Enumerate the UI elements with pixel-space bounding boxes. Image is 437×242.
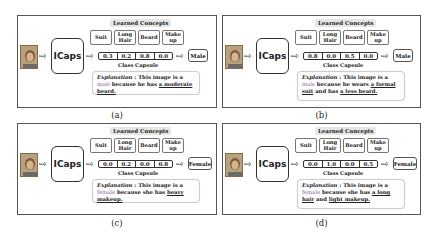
icaps-model-box: ICaps: [256, 146, 289, 182]
class-capsule-label: Class Capsule: [323, 170, 363, 176]
concept-long-hair: Long Hair: [114, 30, 136, 45]
icaps-model-box: ICaps: [51, 146, 84, 182]
class-capsule: 0.0 1.0 0.0 0.5: [303, 160, 378, 168]
arrow-right-icon: ⇨: [176, 52, 184, 61]
concept-long-hair: Long Hair: [319, 138, 341, 153]
class-word: male: [302, 81, 315, 87]
learned-concepts-title: Learned Concepts: [315, 19, 376, 27]
arrow-right-icon: ⇨: [381, 160, 389, 169]
class-word: female: [302, 189, 320, 195]
model-label: ICaps: [259, 51, 287, 61]
capsule-value: 0.2: [118, 53, 137, 59]
model-label: ICaps: [259, 159, 287, 169]
concept-beard: Beard: [138, 30, 160, 45]
explanation-box: Explanation : This image is a male becau…: [297, 71, 405, 101]
learned-concepts-title: Learned Concepts: [110, 127, 171, 135]
explanation-label: Explanation: [302, 74, 337, 80]
capsule-value: 0.5: [341, 53, 360, 59]
concept-make-up: Make up: [162, 138, 184, 153]
concept-suit: Suit: [90, 30, 112, 45]
face-photo: [20, 45, 38, 69]
capsule-value: 0.2: [118, 161, 137, 167]
explanation-label: Explanation: [97, 74, 132, 80]
figure-panel-a: ⇨ ICaps Learned Concepts Suit Long Hair …: [17, 15, 217, 108]
evidence-text: a less beard.: [340, 88, 377, 94]
capsule-value: 0.0: [136, 161, 155, 167]
capsule-value: 0.0: [155, 53, 173, 59]
explanation-label: Explanation: [302, 182, 337, 188]
concept-make-up: Make up: [367, 30, 389, 45]
class-capsule-label: Class Capsule: [118, 170, 158, 176]
concept-make-up: Make up: [162, 30, 184, 45]
arrow-right-icon: ⇨: [291, 52, 299, 61]
capsule-value: 0.0: [341, 161, 360, 167]
class-word: male: [97, 81, 110, 87]
explanation-box: Explanation : This image is a male becau…: [92, 71, 200, 95]
class-capsule-label: Class Capsule: [118, 62, 158, 68]
arrow-right-icon: ⇨: [176, 160, 184, 169]
explanation-box: Explanation : This image is a female bec…: [297, 179, 405, 209]
capsule-value: 0.3: [99, 53, 118, 59]
arrow-right-icon: ⇨: [291, 160, 299, 169]
capsule-value: 1.0: [323, 161, 342, 167]
concept-beard: Beard: [343, 30, 365, 45]
concept-suit: Suit: [295, 30, 317, 45]
capsule-value: 0.0: [99, 161, 118, 167]
class-capsule-label: Class Capsule: [323, 62, 363, 68]
concept-suit: Suit: [90, 138, 112, 153]
evidence-text: light makeup.: [329, 196, 370, 202]
panel-caption: (b): [307, 110, 337, 120]
capsule-value: 0.5: [360, 161, 378, 167]
capsule-value: 0.8: [155, 161, 173, 167]
predicted-class-box: Female: [188, 157, 212, 170]
explanation-label: Explanation: [97, 182, 132, 188]
arrow-right-icon: ⇨: [244, 160, 252, 169]
capsule-value: 0.0: [323, 53, 342, 59]
model-label: ICaps: [54, 159, 82, 169]
arrow-right-icon: ⇨: [86, 160, 94, 169]
learned-concepts-title: Learned Concepts: [110, 19, 171, 27]
panel-caption: (a): [102, 110, 132, 120]
arrow-right-icon: ⇨: [381, 52, 389, 61]
figure-panel-b: ⇨ ICaps Learned Concepts Suit Long Hair …: [222, 15, 421, 108]
predicted-class-box: Male: [393, 49, 413, 62]
class-capsule: 0.0 0.2 0.0 0.8: [98, 160, 173, 168]
predicted-class-box: Male: [188, 49, 208, 62]
arrow-right-icon: ⇨: [39, 52, 47, 61]
class-capsule: 0.3 0.2 0.8 0.0: [98, 52, 173, 60]
class-word: female: [97, 189, 115, 195]
capsule-value: 0.8: [304, 53, 323, 59]
figure-panel-c: ⇨ ICaps Learned Concepts Suit Long Hair …: [17, 123, 217, 215]
figure-panel-d: ⇨ ICaps Learned Concepts Suit Long Hair …: [222, 123, 421, 215]
capsule-value: 0.0: [360, 53, 378, 59]
face-photo: [225, 153, 243, 177]
icaps-model-box: ICaps: [51, 38, 84, 74]
capsule-value: 0.8: [136, 53, 155, 59]
arrow-right-icon: ⇨: [86, 52, 94, 61]
predicted-class-box: Female: [393, 157, 417, 170]
arrow-right-icon: ⇨: [39, 160, 47, 169]
model-label: ICaps: [54, 51, 82, 61]
capsule-value: 0.0: [304, 161, 323, 167]
arrow-right-icon: ⇨: [244, 52, 252, 61]
panel-caption: (d): [307, 218, 337, 228]
class-capsule: 0.8 0.0 0.5 0.0: [303, 52, 378, 60]
panel-caption: (c): [102, 218, 132, 228]
concept-long-hair: Long Hair: [319, 30, 341, 45]
concept-long-hair: Long Hair: [114, 138, 136, 153]
learned-concepts-title: Learned Concepts: [315, 127, 376, 135]
concept-beard: Beard: [138, 138, 160, 153]
face-photo: [225, 45, 243, 69]
concept-beard: Beard: [343, 138, 365, 153]
concept-suit: Suit: [295, 138, 317, 153]
face-photo: [20, 153, 38, 177]
explanation-box: Explanation : This image is a female bec…: [92, 179, 200, 203]
icaps-model-box: ICaps: [256, 38, 289, 74]
concept-make-up: Make up: [367, 138, 389, 153]
